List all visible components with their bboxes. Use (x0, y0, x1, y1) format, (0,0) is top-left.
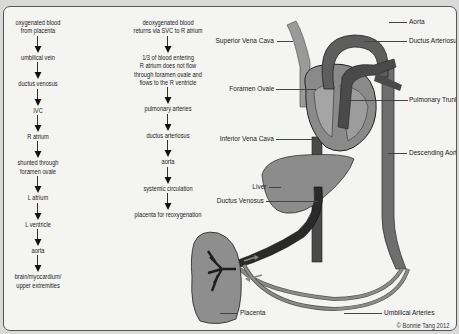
label-pulmonary-trunk: Pulmonary Trunk (409, 95, 457, 104)
fetal-circulation-illustration (4, 7, 456, 330)
copyright-text: © Bonnie Tang 2012 (397, 322, 450, 329)
label-umbilical-arteries: Umbilical Arteries (384, 308, 434, 317)
descending-aorta-vessel (382, 67, 406, 269)
label-placenta: Placenta (240, 308, 265, 317)
label-ductus-arteriosus: Ductus Arteriosus (409, 36, 457, 45)
diagram-panel: oxygenated blood from placenta umbilical… (3, 6, 457, 331)
liver-shape (262, 155, 354, 214)
label-inferior-vena-cava: Inferior Vena Cava (220, 134, 274, 143)
label-descending-aorta: Descending Aorta (409, 148, 457, 157)
label-superior-vena-cava: Superior Vena Cava (216, 36, 274, 45)
label-ductus-venosus: Ductus Venosus (217, 196, 264, 205)
label-liver: Liver (252, 182, 266, 191)
label-aorta: Aorta (409, 17, 425, 26)
label-foramen-ovale: Foramen Ovale (229, 84, 274, 93)
